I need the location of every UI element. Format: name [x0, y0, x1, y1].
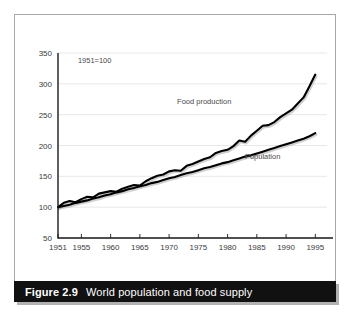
figure-caption-bar: Figure 2.9 World population and food sup… [14, 281, 336, 302]
x-axis-tick-label: 1965 [131, 243, 149, 252]
x-axis-tick-label: 1951 [49, 243, 67, 252]
y-axis-tick-label: 100 [39, 203, 53, 212]
series-line-food-production [58, 75, 315, 208]
x-axis-tick-label: 1960 [102, 243, 120, 252]
x-axis-tick-label: 1995 [306, 243, 324, 252]
y-axis-tick-label: 300 [39, 80, 53, 89]
y-axis-tick-label: 200 [39, 142, 53, 151]
y-axis-tick-label: 250 [39, 111, 53, 120]
x-axis-tick-label: 1985 [248, 243, 266, 252]
figure-container: 50100150200250300350 1951195519601965197… [0, 0, 353, 313]
x-axis-tick-label: 1970 [160, 243, 178, 252]
y-axis-tick-label: 350 [39, 49, 53, 58]
y-axis-tick-labels: 50100150200250300350 [39, 49, 53, 243]
population-food-supply-chart: 50100150200250300350 1951195519601965197… [15, 15, 337, 255]
data-series [58, 75, 317, 209]
caption-figure-number: Figure 2.9 [25, 286, 78, 298]
x-axis-tick-label: 1955 [72, 243, 90, 252]
figure-panel: 50100150200250300350 1951195519601965197… [14, 14, 336, 282]
y-axis-tick-label: 150 [39, 172, 53, 181]
base-year-note: 1951=100 [78, 56, 112, 65]
caption-title: World population and food supply [86, 286, 252, 298]
x-axis-tick-label: 1990 [277, 243, 295, 252]
x-axis-tick-labels: 1951195519601965197019751980198519901995 [49, 243, 325, 252]
x-axis-tick-label: 1980 [219, 243, 237, 252]
chart-plot-area: 50100150200250300350 1951195519601965197… [15, 15, 337, 255]
series-label-food-production: Food production [177, 97, 231, 106]
series-label-population: Population [245, 152, 280, 161]
y-axis-tick-label: 50 [43, 234, 52, 243]
x-axis-tick-label: 1975 [189, 243, 207, 252]
